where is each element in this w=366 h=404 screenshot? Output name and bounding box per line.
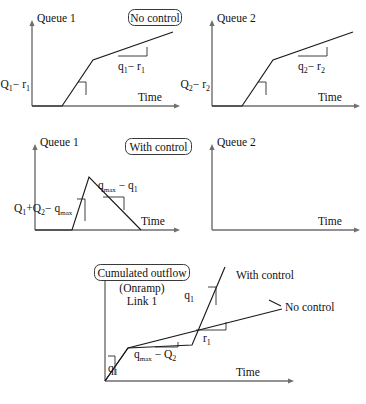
leader-line-no-control (269, 300, 281, 306)
panel-queue2-no-control: Q2− r2 q2− r2 Queue 2 Time (180, 12, 360, 109)
figure-root: Q1− r1 q1− r1 Queue 1 Time No control Q2… (0, 0, 366, 404)
y-axis-arrow (29, 20, 34, 26)
x-axis-label-time: Time (236, 366, 260, 378)
x-axis-arrow (288, 378, 294, 383)
slope-triangle-steep (258, 82, 266, 95)
x-axis-arrow (354, 227, 360, 232)
slope-label-Q2-r2: Q2− r2 (180, 78, 210, 93)
y-axis-label-queue1: Queue 1 (37, 12, 76, 24)
y-axis-arrow (32, 144, 37, 150)
tag-label-cumulated-outflow: Cumulated outflow (97, 267, 187, 279)
subtitle-link1: Link 1 (127, 295, 158, 307)
slope-label-qmax-Q2: qmax − Q2 (134, 348, 176, 363)
slope-triangle-shallow (298, 47, 327, 56)
slope-label-q1-steep: q1 (184, 289, 194, 304)
y-axis-label-queue1: Queue 1 (40, 136, 79, 148)
x-axis-label-time: Time (318, 215, 342, 227)
slope-label-Q1-r1: Q1− r1 (0, 78, 30, 93)
x-axis-arrow (354, 103, 360, 108)
x-axis-label-time: Time (141, 215, 165, 227)
panel-cumulated-outflow: q1 qmax − Q2 r1 q1 With control No contr… (95, 265, 335, 384)
x-axis-label-time: Time (318, 91, 342, 103)
panel-queue1-with-control: Q1+Q2− qmax qmax − q1 Queue 1 Time With … (14, 136, 192, 233)
x-axis-arrow (174, 103, 180, 108)
x-axis-arrow (174, 227, 180, 232)
tag-label-with-control: With control (130, 141, 188, 153)
y-axis-label-queue2: Queue 2 (217, 12, 256, 24)
figure-canvas: Q1− r1 q1− r1 Queue 1 Time No control Q2… (0, 0, 366, 404)
subtitle-onramp: (Onramp) (119, 282, 165, 295)
x-axis-label-time: Time (138, 91, 162, 103)
y-axis-label-queue2: Queue 2 (217, 136, 256, 148)
slope-label-Q1Q2-qmax: Q1+Q2− qmax (14, 202, 73, 217)
panel-queue1-no-control: Q1− r1 q1− r1 Queue 1 Time No control (0, 10, 181, 109)
slope-label-r1: r1 (203, 332, 211, 347)
slope-label-q2-r2: q2− r2 (298, 60, 325, 75)
slope-triangle-steep (78, 82, 86, 95)
slope-triangle-shallow (118, 47, 147, 56)
legend-label-with-control: With control (236, 269, 294, 281)
y-axis-arrow (209, 20, 214, 26)
tag-label-no-control: No control (130, 12, 180, 24)
panel-queue2-with-control: Queue 2 Time (209, 136, 360, 233)
legend-label-no-control: No control (285, 301, 335, 313)
slope-label-q1-r1: q1− r1 (118, 60, 145, 75)
y-axis-arrow (209, 144, 214, 150)
slope-label-qmax-q1: qmax − q1 (98, 179, 138, 194)
slope-triangle-fall (103, 197, 124, 210)
